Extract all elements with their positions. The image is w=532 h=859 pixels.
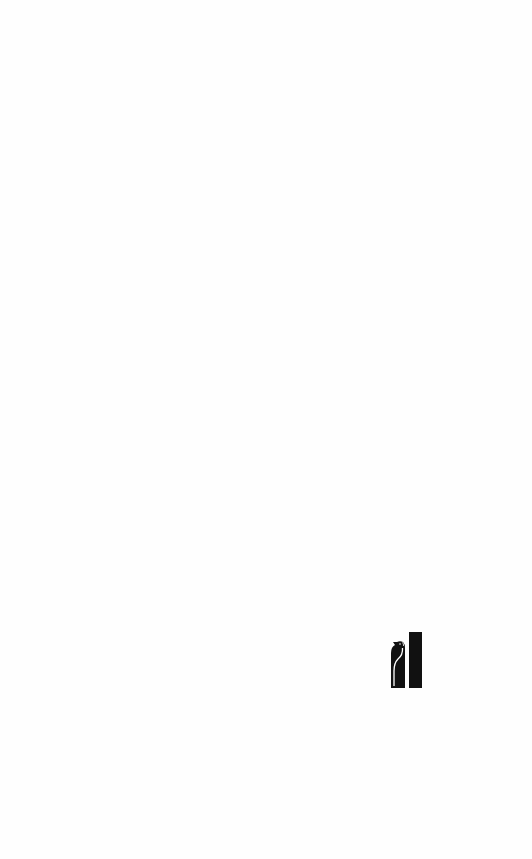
publisher-logo <box>389 631 425 689</box>
penguin-logo-icon <box>389 631 425 689</box>
book-page <box>0 0 532 859</box>
